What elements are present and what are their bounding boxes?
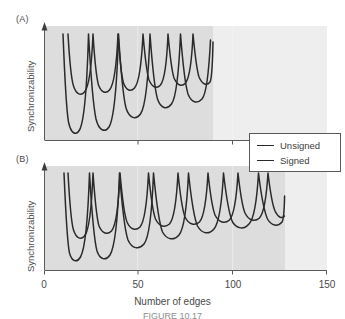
- legend-label-unsigned: Unsigned: [280, 140, 320, 151]
- x-tick-label-150: 150: [316, 279, 338, 290]
- panel-a-label: (A): [16, 14, 29, 24]
- panel-b-label: (B): [16, 154, 29, 164]
- legend-item-unsigned: Unsigned: [250, 138, 340, 153]
- panel-b-band-sep-2: [232, 166, 233, 270]
- panel-a-band-sep-2: [232, 26, 233, 140]
- x-axis-label: Number of edges: [0, 296, 345, 307]
- figure-container: (A) (B) Synchronizability Synchronizabil…: [0, 0, 345, 319]
- panel-a-y-axis-label: Synchronizability: [25, 61, 36, 132]
- legend-item-signed: Signed: [250, 153, 340, 168]
- panel-b: [42, 162, 327, 275]
- panel-a-light-region: [213, 26, 327, 140]
- figure-caption: FIGURE 10.17: [0, 311, 345, 319]
- legend-line-swatch-unsigned: [257, 145, 274, 146]
- panel-b-light-region: [285, 166, 327, 270]
- legend-label-signed: Signed: [280, 155, 310, 166]
- panel-b-band-sep-1: [137, 166, 138, 270]
- panel-a: [42, 22, 327, 145]
- legend: Unsigned Signed: [249, 133, 341, 172]
- x-tick-label-0: 0: [34, 279, 54, 290]
- panel-b-y-axis-label: Synchronizability: [25, 201, 36, 272]
- panel-a-shaded-region: [45, 26, 213, 140]
- legend-line-swatch-signed: [257, 160, 274, 161]
- x-tick-label-50: 50: [128, 279, 148, 290]
- x-tick-label-100: 100: [222, 279, 244, 290]
